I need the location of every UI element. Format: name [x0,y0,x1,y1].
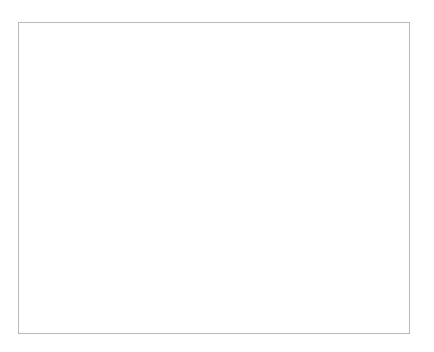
chart-container: 1401501601701801902002108/18/201110/18/2… [0,0,434,352]
chart-frame [18,22,410,334]
